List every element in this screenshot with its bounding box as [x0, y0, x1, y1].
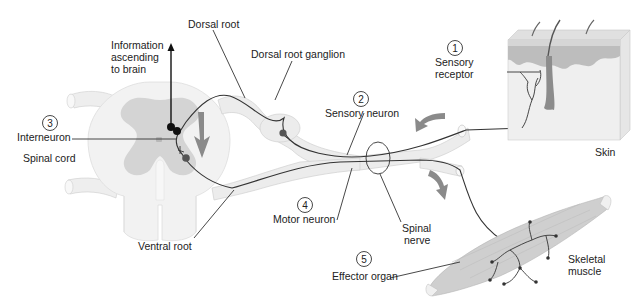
svg-text:3: 3	[47, 118, 53, 129]
label-information-ascending-line3: to brain	[111, 63, 146, 75]
step-5-badge: 5	[357, 252, 372, 267]
step-4-badge: 4	[298, 198, 313, 213]
label-spinal-cord: Spinal cord	[23, 152, 76, 164]
svg-text:2: 2	[358, 94, 364, 105]
skeletal-muscle	[426, 196, 611, 296]
svg-text:1: 1	[452, 43, 458, 54]
svg-text:5: 5	[361, 254, 367, 265]
label-sensory-receptor-line1: Sensory	[435, 56, 474, 68]
label-dorsal-root: Dorsal root	[188, 18, 239, 30]
label-spinal-nerve-line1: Spinal	[402, 222, 431, 234]
spinal-cord	[65, 82, 230, 241]
label-motor-neuron: Motor neuron	[273, 213, 336, 225]
label-skeletal-muscle-line1: Skeletal	[568, 253, 605, 265]
label-interneuron: Interneuron	[17, 131, 71, 143]
step-3-badge: 3	[43, 116, 58, 131]
skin-block	[508, 20, 630, 140]
label-information-ascending-line2: ascending	[111, 51, 159, 63]
step-2-badge: 2	[354, 92, 369, 107]
sensory-direction-arrow	[415, 113, 445, 132]
label-effector-organ: Effector organ	[332, 270, 398, 282]
label-spinal-nerve-line2: nerve	[404, 234, 430, 246]
label-ventral-root: Ventral root	[138, 240, 192, 252]
label-dorsal-root-ganglion: Dorsal root ganglion	[251, 48, 345, 60]
label-sensory-receptor-line2: receptor	[435, 68, 474, 80]
motor-direction-arrow	[428, 170, 448, 200]
motor-neuron-path	[186, 160, 510, 250]
step-1-badge: 1	[448, 41, 463, 56]
reflex-arc-diagram: 1 2 3 4 5 Dorsal root Dorsal root gangli…	[0, 0, 638, 305]
label-skin: Skin	[595, 146, 616, 158]
label-skeletal-muscle-line2: muscle	[568, 265, 601, 277]
label-information-ascending-line1: Information	[111, 39, 164, 51]
label-sensory-neuron: Sensory neuron	[325, 107, 399, 119]
svg-text:4: 4	[302, 200, 308, 211]
